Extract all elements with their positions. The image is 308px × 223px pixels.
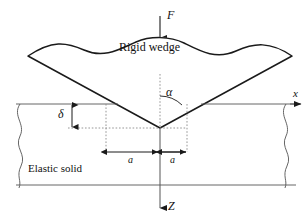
rigid-wedge-label: Rigid wedge [119,41,180,53]
z-axis-label: Z [168,200,175,212]
break-line-left [17,104,22,188]
figure-canvas [0,0,308,223]
alpha-angle-label: α [166,86,172,98]
elastic-solid-label: Elastic solid [28,163,82,174]
break-line-right [283,104,288,188]
wedge-indentation-figure: F Rigid wedge α δ a a Elastic solid x Z [0,0,308,223]
x-axis-label: x [293,88,298,99]
force-label: F [167,9,174,21]
contact-half-width-right-label: a [170,155,175,165]
delta-depth-label: δ [58,108,64,120]
contact-half-width-left-label: a [128,155,133,165]
